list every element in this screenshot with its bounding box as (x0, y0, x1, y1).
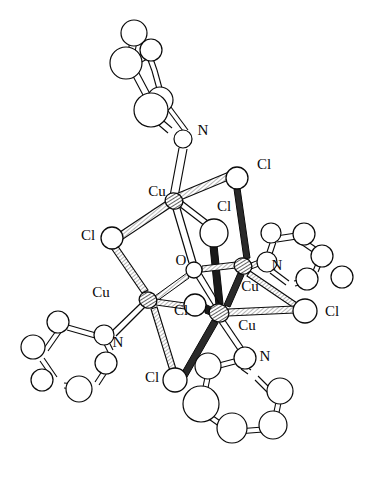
atom-label-Cl-mid: Cl (217, 198, 231, 214)
structure-figure: N Cl Cu Cl Cl O N Cu Cu Cl Cu Cl N Cl N (0, 0, 372, 493)
carbon-atom (140, 39, 162, 61)
carbon-atom (110, 47, 142, 79)
atom-label-N-right: N (272, 257, 283, 273)
atom-label-Cu-bottom: Cu (238, 317, 256, 333)
atom-label-N-top: N (198, 122, 209, 138)
carbon-atom (66, 376, 92, 402)
atom-label-Cl-right: Cl (325, 303, 339, 319)
carbon-atom (296, 268, 318, 290)
chlorine-atom (101, 227, 123, 249)
chlorine-atom (200, 219, 228, 247)
atom-label-Cl-left: Cl (81, 227, 95, 243)
nitrogen-atom (174, 130, 192, 148)
carbon-atom (183, 386, 219, 422)
chlorine-atom (226, 167, 248, 189)
atom-label-N-left: N (113, 334, 124, 350)
carbon-atom (47, 311, 69, 333)
chlorine-atom (163, 368, 187, 392)
carbon-atom (134, 93, 168, 127)
carbon-atom (259, 411, 287, 439)
carbon-atom (331, 266, 353, 288)
carbon-atom (95, 352, 117, 374)
oxygen-atom (186, 262, 202, 278)
atom-label-Cu-left: Cu (92, 284, 110, 300)
carbon-atom (217, 413, 247, 443)
atom-label-Cl-bottom: Cl (145, 369, 159, 385)
carbon-atom (293, 223, 315, 245)
carbon-atom (21, 335, 45, 359)
atom-label-Cl-center: Cl (174, 302, 188, 318)
atom-label-Cu-right: Cu (241, 278, 259, 294)
molecular-structure-svg: N Cl Cu Cl Cl O N Cu Cu Cl Cu Cl N Cl N (0, 0, 372, 493)
nitrogen-atom (94, 325, 114, 345)
carbon-atom (261, 223, 281, 243)
atom-label-O-center: O (176, 252, 187, 268)
atom-label-Cl-topright: Cl (257, 156, 271, 172)
carbon-atom (31, 369, 53, 391)
atom-label-N-bottom: N (260, 348, 271, 364)
carbon-atom (195, 353, 221, 379)
carbon-atom (311, 245, 333, 267)
atom-label-Cu-top: Cu (148, 183, 166, 199)
carbon-atom (267, 378, 293, 404)
chlorine-atom (293, 299, 317, 323)
nitrogen-atom (234, 347, 256, 369)
